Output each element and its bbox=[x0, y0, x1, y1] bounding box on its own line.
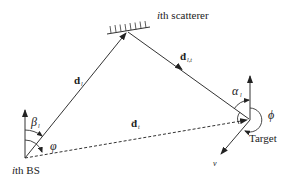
angle-phi-label: ϕ bbox=[268, 108, 274, 122]
scatterer-geometry-diagram: ith scatterer ith BS Target → d l → d l,… bbox=[0, 0, 289, 181]
svg-text:β: β bbox=[30, 115, 37, 129]
vector-d-lt bbox=[128, 32, 249, 119]
vector-d-t-label: → d t bbox=[130, 116, 140, 130]
svg-text:d: d bbox=[131, 117, 137, 129]
angle-alpha-arc bbox=[234, 100, 249, 109]
svg-text:t: t bbox=[138, 124, 140, 130]
vector-d-l bbox=[25, 33, 126, 158]
angle-phi-arc bbox=[245, 108, 262, 132]
svg-text:l,t: l,t bbox=[187, 57, 192, 63]
velocity-vector bbox=[221, 120, 250, 154]
vector-d-l-label: → d l bbox=[73, 74, 83, 87]
target-label: Target bbox=[249, 132, 277, 144]
svg-text:l: l bbox=[240, 92, 242, 98]
vector-d-lt-label: → d l,t bbox=[179, 49, 192, 63]
angle-alpha-label: α l bbox=[232, 84, 242, 98]
svg-text:l: l bbox=[38, 123, 40, 129]
velocity-label: v bbox=[213, 159, 217, 168]
svg-text:α: α bbox=[232, 84, 239, 98]
angle-varphi-label: φ bbox=[50, 139, 57, 153]
angle-beta-label: β l bbox=[30, 115, 40, 129]
svg-text:d: d bbox=[180, 50, 186, 62]
angle-varphi-arc bbox=[25, 140, 42, 152]
angle-phi-inner-arc bbox=[238, 112, 240, 124]
scatterer-label: ith scatterer bbox=[157, 9, 209, 21]
svg-text:d: d bbox=[74, 74, 80, 86]
bs-label: ith BS bbox=[12, 164, 40, 176]
angle-beta-arc bbox=[25, 130, 42, 136]
